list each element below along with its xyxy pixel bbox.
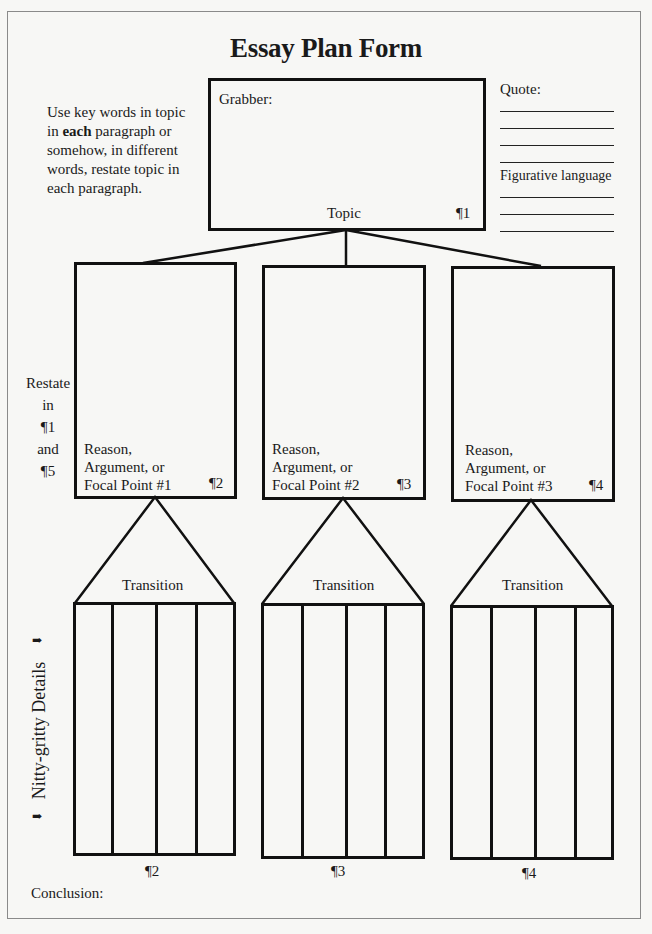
details-divider (301, 606, 304, 856)
transition-label-3: Transition (502, 576, 563, 594)
details-mark-3: ¶4 (522, 864, 536, 882)
restate-note: Restate in ¶1 and ¶5 (26, 372, 70, 482)
figurative-language-label: Figurative language (500, 167, 612, 185)
figurative-line-1[interactable] (500, 197, 614, 198)
topic-label: Topic (327, 204, 361, 222)
figurative-line-3[interactable] (500, 231, 614, 232)
reason-box-3[interactable]: Reason, Argument, or Focal Point #3 ¶4 (451, 266, 615, 502)
reason-box-1[interactable]: Reason, Argument, or Focal Point #1 ¶2 (74, 262, 237, 499)
quote-label: Quote: (500, 80, 541, 98)
details-divider (574, 608, 577, 857)
details-divider (490, 608, 493, 857)
transition-label-1: Transition (122, 576, 183, 594)
reason-box-1-line-1: Reason, (84, 440, 132, 458)
reason-box-2-line-2: Argument, or (272, 458, 353, 476)
conclusion-label: Conclusion: (31, 884, 104, 902)
paragraph-mark-2: ¶2 (209, 474, 223, 492)
details-group-2[interactable] (261, 603, 425, 859)
quote-line-4[interactable] (500, 162, 614, 163)
arrow-right-icon: ➡ (32, 634, 42, 646)
transition-label-2: Transition (313, 576, 374, 594)
quote-line-3[interactable] (500, 145, 614, 146)
details-divider (111, 605, 114, 853)
grabber-label: Grabber: (219, 90, 272, 108)
reason-box-3-line-1: Reason, (465, 441, 513, 459)
paragraph-mark-4: ¶4 (589, 476, 603, 494)
details-mark-1: ¶2 (145, 862, 159, 880)
reason-box-3-line-3: Focal Point #3 (465, 477, 553, 495)
topic-box[interactable]: Grabber: Topic ¶1 (208, 78, 486, 231)
figurative-line-2[interactable] (500, 214, 614, 215)
quote-line-1[interactable] (500, 111, 614, 112)
details-group-3[interactable] (450, 605, 614, 860)
reason-box-1-line-2: Argument, or (84, 458, 165, 476)
reason-box-2-line-1: Reason, (272, 440, 320, 458)
nitty-gritty-label: Nitty-gritty Details (25, 655, 55, 805)
details-divider (345, 606, 348, 856)
reason-box-3-line-2: Argument, or (465, 459, 546, 477)
details-divider (534, 608, 537, 857)
details-mark-2: ¶3 (331, 862, 345, 880)
paragraph-mark-1: ¶1 (456, 204, 470, 222)
details-group-1[interactable] (73, 602, 236, 856)
details-divider (195, 605, 198, 853)
paragraph-mark-3: ¶3 (397, 475, 411, 493)
quote-line-2[interactable] (500, 128, 614, 129)
reason-box-2[interactable]: Reason, Argument, or Focal Point #2 ¶3 (262, 265, 426, 500)
reason-box-1-line-3: Focal Point #1 (84, 476, 172, 494)
details-divider (384, 606, 387, 856)
reason-box-2-line-3: Focal Point #2 (272, 476, 360, 494)
details-divider (155, 605, 158, 853)
arrow-right-icon: ➡ (32, 810, 42, 822)
